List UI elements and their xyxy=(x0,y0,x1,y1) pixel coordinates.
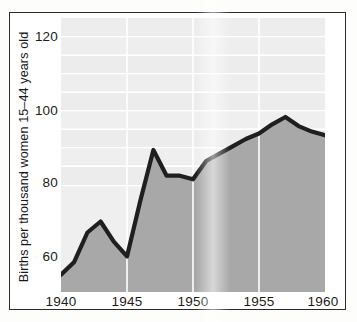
chart-figure: Births per thousand women 15–44 years ol… xyxy=(0,0,357,322)
plot-area xyxy=(61,18,325,292)
x-axis-tick-labels: 1940 1945 1950 1955 1960 xyxy=(0,294,357,316)
y-tick-label-60: 60 xyxy=(14,249,58,264)
x-tick-label-1945: 1945 xyxy=(97,294,157,309)
y-tick-label-120: 120 xyxy=(14,29,58,44)
x-tick-label-1955: 1955 xyxy=(229,294,289,309)
plot-svg xyxy=(61,18,325,292)
x-tick-label-1950: 1950 xyxy=(163,294,223,309)
y-axis-tick-labels: 120 100 80 60 xyxy=(6,0,58,322)
x-tick-label-1940: 1940 xyxy=(31,294,91,309)
y-tick-label-80: 80 xyxy=(14,175,58,190)
y-tick-label-100: 100 xyxy=(14,103,58,118)
x-tick-label-1960: 1960 xyxy=(293,294,353,309)
